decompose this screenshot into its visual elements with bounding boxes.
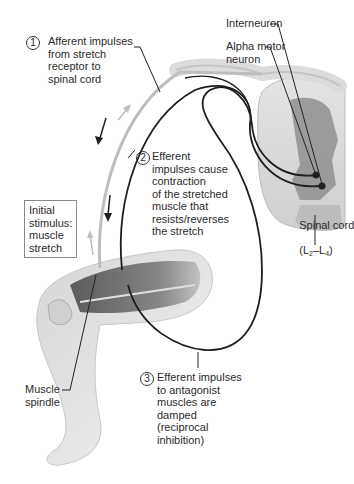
step-1-text: Afferent impulses from stretch receptor … [48, 35, 133, 85]
spinal-cord-name: Spinal cord [299, 219, 354, 231]
step-2-text: Efferent impulses cause contraction of t… [152, 150, 229, 238]
initial-stimulus-box: Initial stimulus: muscle stretch [24, 200, 77, 258]
spinal-level-close: ) [329, 244, 333, 256]
step-2-number: 2 [136, 151, 150, 165]
spinal-level-dash: –L [313, 244, 325, 256]
alpha-motor-neuron-label: Alpha motor neuron [226, 40, 285, 65]
muscle-spindle-label: Muscle spindle [25, 383, 60, 408]
step-3-number: 3 [140, 372, 154, 386]
interneuron-label: Interneuron [226, 17, 282, 30]
spinal-level-open: (L [299, 244, 309, 256]
spinal-cord-label: Spinal cord (L2–L4) [287, 206, 354, 273]
step-3-text: Efferent impulses to antagonist muscles … [157, 371, 242, 446]
step-1-number: 1 [26, 36, 40, 50]
